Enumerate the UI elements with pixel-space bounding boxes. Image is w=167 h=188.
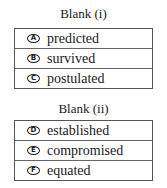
option-b[interactable]: B survived <box>15 48 152 68</box>
blank-ii-heading: Blank (ii) <box>0 101 167 117</box>
option-c[interactable]: C postulated <box>15 68 152 88</box>
option-label: survived <box>47 49 95 68</box>
option-letter-icon: F <box>27 166 40 175</box>
option-letter-icon: B <box>27 54 40 63</box>
blank-i-heading: Blank (i) <box>0 6 167 22</box>
option-d[interactable]: D established <box>15 121 152 140</box>
option-letter-icon: E <box>27 146 40 155</box>
blank-ii-options: D established E compromised F equated <box>14 120 153 181</box>
option-label: postulated <box>47 69 105 88</box>
blank-i-options: A predicted B survived C postulated <box>14 28 153 89</box>
option-label: predicted <box>47 29 99 48</box>
option-letter-icon: D <box>27 126 40 135</box>
option-f[interactable]: F equated <box>15 160 152 180</box>
option-letter-icon: C <box>27 74 40 83</box>
option-a[interactable]: A predicted <box>15 29 152 48</box>
option-label: compromised <box>47 141 123 160</box>
option-label: equated <box>47 161 91 180</box>
option-letter-icon: A <box>27 34 40 43</box>
option-label: established <box>47 121 109 140</box>
option-e[interactable]: E compromised <box>15 140 152 160</box>
